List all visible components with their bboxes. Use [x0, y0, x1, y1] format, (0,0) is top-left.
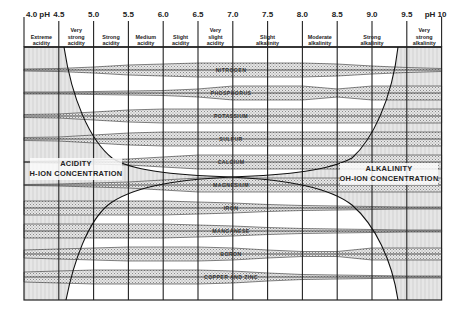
alkalinity-label: ALKALINITY OH-ION CONCENTRATION	[339, 163, 438, 185]
svg-text:alkalinity: alkalinity	[360, 40, 383, 46]
ph-tick-8: 8.0	[297, 10, 309, 19]
alkalinity-title: ALKALINITY	[366, 164, 413, 173]
nutrient-label-phosphorus: PHOSPHORUS	[211, 90, 252, 96]
zone-label: Moderatealkalinity	[308, 34, 332, 47]
svg-text:Extreme: Extreme	[31, 34, 52, 40]
ph-tick-6.5: 6.5	[192, 10, 204, 19]
ph-tick-5: 5.0	[88, 10, 100, 19]
ph-tick-7: 7.0	[227, 10, 239, 19]
zone-label: Veryslightacidity	[207, 27, 224, 46]
svg-text:alkalinity: alkalinity	[413, 40, 436, 46]
ph-tick-10: pH 10	[425, 10, 447, 19]
svg-text:acidity: acidity	[33, 40, 50, 46]
svg-text:acidity: acidity	[102, 40, 119, 46]
zone-label: Extremeacidity	[31, 34, 52, 47]
ph-tick-8.5: 8.5	[332, 10, 344, 19]
svg-text:Very: Very	[210, 27, 221, 33]
svg-text:Very: Very	[70, 27, 81, 33]
svg-text:acidity: acidity	[137, 40, 154, 46]
svg-text:Very: Very	[418, 27, 429, 33]
svg-text:Medium: Medium	[136, 34, 157, 40]
nutrient-ph-diagram: 4.0 pH4.55.05.56.06.57.07.58.08.59.09.5p…	[0, 0, 467, 318]
nutrient-label-calcium: CALCIUM	[218, 159, 245, 165]
nutrient-label-manganese: MANGANESE	[212, 228, 249, 234]
nutrient-label-potassium: POTASSIUM	[214, 113, 248, 119]
ph-tick-4.5: 4.5	[53, 10, 65, 19]
nutrient-label-boron: BORON	[220, 251, 241, 257]
h-ion-concentration-label: H-ION CONCENTRATION	[29, 169, 122, 178]
svg-text:Strong: Strong	[363, 34, 380, 40]
ph-tick-5.5: 5.5	[123, 10, 135, 19]
oh-ion-concentration-label: OH-ION CONCENTRATION	[339, 174, 438, 183]
svg-text:alkalinity: alkalinity	[308, 40, 331, 46]
acidity-title: ACIDITY	[60, 159, 92, 168]
nutrient-label-copper-and-zinc: COPPER AND ZINC	[204, 274, 258, 280]
svg-text:Slight: Slight	[173, 34, 188, 40]
acidity-label: ACIDITY H-ION CONCENTRATION	[29, 158, 122, 180]
nutrient-label-sulfur: SULFUR	[219, 136, 242, 142]
ph-tick-6: 6.0	[158, 10, 170, 19]
svg-text:acidity: acidity	[207, 40, 224, 46]
ph-tick-7.5: 7.5	[262, 10, 274, 19]
nutrient-label-nitrogen: NITROGEN	[216, 67, 247, 73]
zone-label: Slightalkalinity	[256, 34, 279, 47]
ph-tick-4: 4.0 pH	[26, 10, 50, 19]
svg-text:acidity: acidity	[172, 40, 189, 46]
zone-label: Verystrongacidity	[68, 27, 85, 46]
zone-label: Strongalkalinity	[360, 34, 383, 47]
zone-label: Verystrongalkalinity	[413, 27, 436, 46]
svg-text:Moderate: Moderate	[308, 34, 332, 40]
svg-text:strong: strong	[68, 34, 85, 40]
nutrient-label-magnesium: MAGNESIUM	[213, 182, 249, 188]
zone-label: Strongacidity	[102, 34, 119, 47]
ph-axis: 4.0 pH4.55.05.56.06.57.07.58.08.59.09.5p…	[26, 10, 447, 19]
svg-text:Strong: Strong	[102, 34, 119, 40]
zone-label: Slightacidity	[172, 34, 189, 47]
svg-text:strong: strong	[416, 34, 433, 40]
svg-text:slight: slight	[208, 34, 223, 40]
zone-label: Mediumacidity	[136, 34, 157, 47]
svg-text:acidity: acidity	[68, 40, 85, 46]
ph-tick-9: 9.0	[366, 10, 378, 19]
svg-text:alkalinity: alkalinity	[256, 40, 279, 46]
ph-tick-9.5: 9.5	[401, 10, 413, 19]
nutrient-label-iron: IRON	[224, 205, 239, 211]
svg-text:Slight: Slight	[260, 34, 275, 40]
